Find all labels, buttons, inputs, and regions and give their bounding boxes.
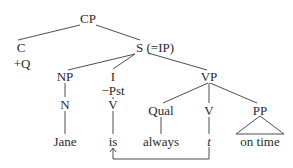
phrase-on-time: on time [240, 135, 279, 148]
feature-plus-q: +Q [14, 57, 31, 70]
feature-minus-pst: −Pst [101, 84, 124, 97]
node-i: I [111, 70, 115, 83]
syntax-tree-diagram: CP C +Q S (=IP) NP N Jane I −Pst V is VP… [0, 0, 293, 168]
word-jane: Jane [53, 135, 76, 148]
branch-s-vp [148, 53, 207, 70]
node-n: N [60, 98, 69, 111]
node-s-ip: S (=IP) [136, 41, 174, 54]
branch-cp-s [96, 25, 140, 40]
word-is: is [109, 135, 118, 148]
node-qual: Qual [148, 104, 173, 117]
node-np: NP [57, 70, 74, 83]
node-cp: CP [80, 12, 96, 25]
movement-arrow [113, 147, 209, 159]
node-c: C [17, 41, 26, 54]
node-v-raised: V [108, 98, 117, 111]
trace-t: t [207, 135, 211, 148]
word-always: always [143, 135, 179, 148]
pp-triangle [236, 116, 284, 134]
node-v-base: V [204, 104, 213, 117]
node-pp: PP [253, 104, 267, 117]
node-vp: VP [201, 70, 218, 83]
branch-s-np [68, 54, 135, 70]
branch-vp-pp [210, 83, 257, 103]
branch-cp-c [18, 25, 80, 40]
branch-vp-qual [163, 83, 208, 103]
